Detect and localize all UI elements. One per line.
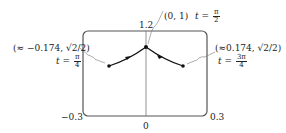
viewing-window-frame	[83, 31, 207, 116]
top-point-t-var: t =	[195, 11, 209, 21]
right-point-t: t = 3π 4	[218, 54, 247, 69]
top-point-annotation: (0, 1) t = π 2	[164, 9, 220, 24]
x-min-label: −0.3	[61, 113, 83, 122]
left-point-coord: (≈ −0.174, √2/2)	[13, 44, 90, 53]
point-right	[181, 64, 185, 68]
x-max-label: 0.3	[210, 113, 224, 122]
leader-right	[187, 52, 215, 64]
point-left	[107, 64, 111, 68]
x-center-label: 0	[143, 122, 149, 131]
left-point-t: t = π 4	[56, 54, 81, 69]
right-point-coord: (≈0.174, √2/2)	[215, 44, 281, 53]
curve-right-branch	[146, 47, 183, 66]
point-top	[144, 45, 148, 49]
curve-left-branch	[109, 47, 146, 66]
top-point-t-fraction: π 2	[213, 9, 220, 24]
top-point-coord: (0, 1)	[164, 11, 188, 21]
y-max-label: 1.2	[139, 21, 153, 30]
